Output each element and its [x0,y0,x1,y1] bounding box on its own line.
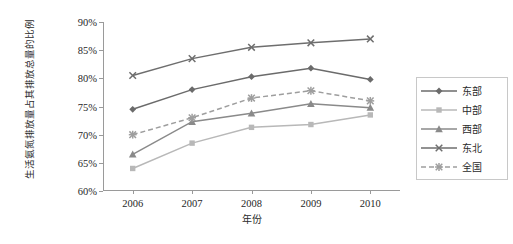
x-tick-label: 2007 [182,198,203,209]
legend-label: 东北 [462,140,482,155]
series-中部 [130,112,373,171]
data-point-star [307,87,315,95]
data-point-square [130,166,135,171]
data-point-square [189,140,194,145]
data-point-diamond [436,87,443,94]
data-point-diamond [308,65,315,72]
legend-key-square-icon [419,103,459,117]
chart-legend: 东部中部西部东北全国 [416,77,508,180]
data-point-star [366,97,374,105]
series-line [133,115,371,169]
legend-item-西部[interactable]: 西部 [419,119,505,138]
legend-label: 东部 [462,83,482,98]
y-axis-title: 生活氨氮排放量占其排放总量的比例 [22,4,36,194]
chart-container: 生活氨氮排放量占其排放总量的比例 60%65%70%75%80%85%90% 2… [0,0,513,244]
y-tick-label: 85% [78,45,97,56]
data-point-diamond [129,106,136,113]
series-line [133,39,371,76]
data-point-diamond [189,86,196,93]
legend-label: 西部 [462,121,482,136]
y-tick-label: 75% [78,101,97,112]
series-东北 [129,36,373,79]
series-lines [103,22,400,191]
data-point-square [368,112,373,117]
data-point-square [436,107,441,112]
data-point-star [188,114,196,122]
data-point-square [308,122,313,127]
data-point-star [248,94,256,102]
x-tick-label: 2009 [300,198,321,209]
legend-key-triangle-icon [419,122,459,136]
legend-item-全国[interactable]: 全国 [419,157,505,176]
data-point-star [435,163,443,171]
x-tick-label: 2006 [122,198,143,209]
legend-item-东部[interactable]: 东部 [419,81,505,100]
legend-key-diamond-icon [419,84,459,98]
legend-item-中部[interactable]: 中部 [419,100,505,119]
data-point-diamond [367,76,374,83]
y-tick-label: 65% [78,157,97,168]
legend-label: 中部 [462,102,482,117]
y-tick-mark [99,191,103,192]
x-axis-title: 年份 [103,211,400,226]
plot-area: 60%65%70%75%80%85%90% 200620072008200920… [103,22,400,191]
legend-label: 全国 [462,159,482,174]
y-tick-label: 90% [78,17,97,28]
data-point-diamond [248,73,255,80]
y-tick-label: 60% [78,186,97,197]
x-tick-label: 2010 [360,198,381,209]
y-tick-label: 70% [78,129,97,140]
data-point-triangle [129,151,137,158]
data-point-star [129,131,137,139]
data-point-square [249,125,254,130]
legend-key-star-icon [419,160,459,174]
legend-item-东北[interactable]: 东北 [419,138,505,157]
legend-key-cross-icon [419,141,459,155]
x-tick-label: 2008 [241,198,262,209]
y-tick-label: 80% [78,73,97,84]
